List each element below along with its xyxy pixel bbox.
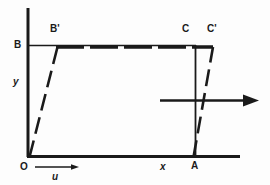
u-arrow-head (71, 164, 79, 170)
label-corner-c-prime: C' (207, 24, 217, 34)
shear-deformation-figure: B B' C C' y O u x A (0, 0, 270, 185)
label-u-axis: u (52, 172, 58, 182)
label-x-axis: x (160, 162, 166, 172)
label-origin: O (20, 162, 28, 172)
label-corner-a: A (191, 161, 198, 171)
label-corner-c: C (182, 24, 189, 34)
deformed-right-edge-line (194, 47, 214, 157)
figure-canvas (0, 0, 270, 185)
deformed-left-edge-line (30, 47, 58, 157)
label-corner-b-prime: B' (50, 24, 60, 34)
label-corner-b: B (14, 40, 21, 50)
label-y-axis: y (13, 77, 19, 87)
displacement-arrow-head (243, 95, 259, 107)
